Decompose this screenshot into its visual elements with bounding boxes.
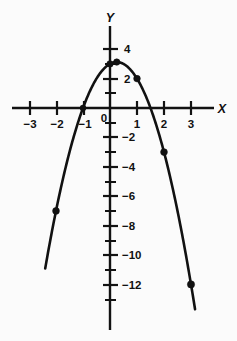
y-tick-label--8: −8	[122, 220, 136, 232]
x-tick-label--3: −3	[23, 118, 36, 130]
origin-label: 0	[101, 112, 107, 124]
data-point	[114, 59, 120, 65]
y-tick-label--4: −4	[122, 161, 136, 173]
y-tick-label--10: −10	[122, 249, 142, 261]
chart-canvas: −3 −2 −1 1 2 3 4 2 −2 −4 −6 −8 −10 −12 0…	[0, 0, 237, 341]
y-tick-label-2: 2	[124, 73, 130, 85]
parabola-chart: −3 −2 −1 1 2 3 4 2 −2 −4 −6 −8 −10 −12 0…	[0, 0, 237, 341]
y-tick-label--12: −12	[122, 279, 142, 291]
y-tick-label--2: −2	[122, 131, 135, 143]
data-point	[53, 208, 60, 215]
x-tick-label--1: −1	[78, 118, 92, 130]
parabola-curve-main	[45, 62, 195, 309]
data-point	[161, 149, 168, 156]
data-point	[187, 281, 194, 288]
y-tick-label-4: 4	[124, 43, 131, 55]
x-axis-label: X	[217, 102, 227, 116]
x-tick-label-3: 3	[188, 118, 194, 130]
x-tick-label--2: −2	[50, 118, 63, 130]
data-point	[80, 105, 86, 111]
data-point	[134, 75, 141, 82]
x-tick-label-1: 1	[134, 118, 141, 130]
x-tick-label-2: 2	[161, 118, 167, 130]
data-point	[107, 61, 113, 67]
y-tick-label--6: −6	[122, 190, 135, 202]
y-axis-label: Y	[106, 11, 116, 25]
